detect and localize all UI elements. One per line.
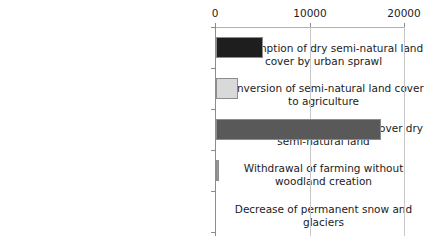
y-axis-tick-0 bbox=[211, 27, 215, 28]
y-axis-tick-4 bbox=[211, 191, 215, 192]
y-axis-tick-3 bbox=[211, 150, 215, 151]
x-axis-tick-label-0: 0 bbox=[212, 7, 219, 19]
plot-area bbox=[215, 27, 405, 236]
x-axis-tick-label-20000: 20000 bbox=[387, 7, 420, 19]
bar-chart: 0 10000 20000 Consumption of dry semi-na… bbox=[0, 0, 426, 249]
bar-withdrawal-farming bbox=[216, 160, 219, 181]
gridline-20000 bbox=[404, 27, 405, 236]
bar-consumption-urban-sprawl bbox=[216, 37, 263, 58]
bar-conversion-agriculture bbox=[216, 78, 238, 99]
y-axis-tick-5 bbox=[211, 232, 215, 233]
x-axis-tick-label-10000: 10000 bbox=[293, 7, 326, 19]
y-axis-tick-2 bbox=[211, 109, 215, 110]
x-axis-tick-0 bbox=[215, 23, 216, 27]
bar-forest-creation bbox=[216, 119, 381, 140]
y-axis-tick-1 bbox=[211, 68, 215, 69]
